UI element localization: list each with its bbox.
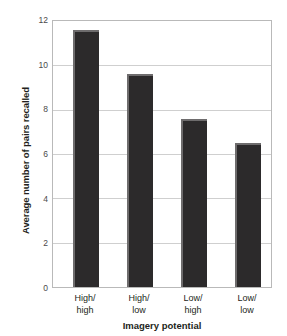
bar-high-high — [73, 30, 99, 287]
x-tick-label-line1: Low/ — [217, 292, 277, 304]
x-tick-label-low-high: Low/ high — [163, 292, 223, 316]
y-tick-label: 12 — [32, 16, 48, 25]
y-tick-label: 0 — [32, 284, 48, 293]
x-tick-label-line1: Low/ — [163, 292, 223, 304]
bar-low-low — [235, 143, 261, 287]
bars-layer — [53, 21, 271, 287]
x-tick-label-line2: high — [163, 304, 223, 316]
y-tick-label: 6 — [32, 150, 48, 159]
y-tick-label: 8 — [32, 105, 48, 114]
x-axis-tick-labels: High/ high High/ low Low/ high Low/ low — [52, 292, 272, 322]
x-axis-title: Imagery potential — [52, 320, 272, 331]
bar-low-high — [181, 119, 207, 287]
x-tick-label-line1: High/ — [55, 292, 115, 304]
x-tick-label-line1: High/ — [109, 292, 169, 304]
bar-high-low — [127, 74, 153, 287]
x-tick-label-low-low: Low/ low — [217, 292, 277, 316]
y-tick-label: 10 — [32, 61, 48, 70]
bar-chart: Average number of pairs recalled 12 10 8… — [0, 0, 287, 336]
x-tick-label-line2: low — [217, 304, 277, 316]
x-tick-label-line2: low — [109, 304, 169, 316]
y-tick-label: 4 — [32, 195, 48, 204]
x-tick-label-line2: high — [55, 304, 115, 316]
plot-area — [52, 20, 272, 288]
y-tick-label: 2 — [32, 239, 48, 248]
y-axis-tick-labels: 12 10 8 6 4 2 0 — [28, 0, 48, 336]
x-tick-label-high-low: High/ low — [109, 292, 169, 316]
x-tick-label-high-high: High/ high — [55, 292, 115, 316]
